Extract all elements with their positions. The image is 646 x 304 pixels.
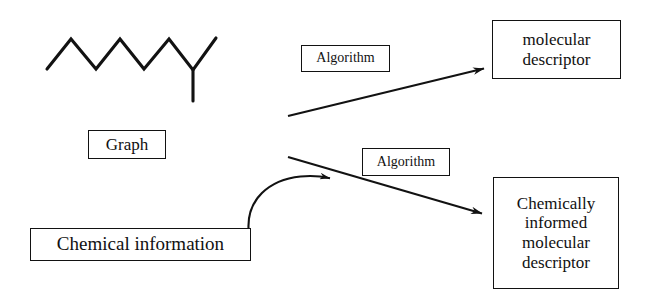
node-graph-label: Graph: [102, 135, 152, 155]
node-algorithm-bottom: Algorithm: [362, 148, 450, 176]
alkane-skeleton-icon: [47, 38, 216, 101]
node-algorithm-top-label: Algorithm: [312, 50, 378, 66]
arrow-graph-to-molecular-descriptor: [288, 69, 484, 117]
diagram-canvas: Graph Algorithm Algorithm molecular desc…: [0, 0, 646, 304]
node-chemical-information-label: Chemical information: [53, 233, 228, 255]
node-algorithm-top: Algorithm: [301, 45, 390, 72]
node-graph: Graph: [88, 130, 166, 159]
node-molecular-descriptor-label: molecular descriptor: [519, 30, 595, 69]
node-chemically-informed-descriptor-label: Chemically informed molecular descriptor: [513, 194, 599, 273]
node-algorithm-bottom-label: Algorithm: [373, 154, 439, 170]
node-chemically-informed-descriptor: Chemically informed molecular descriptor: [493, 177, 619, 289]
node-chemical-information: Chemical information: [30, 228, 251, 261]
arrow-chemical-information-curve: [248, 176, 330, 228]
node-molecular-descriptor: molecular descriptor: [492, 20, 621, 79]
